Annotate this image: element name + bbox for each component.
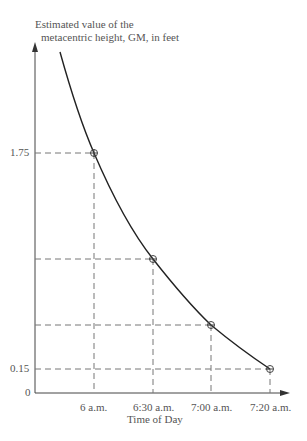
x-tick-700am: 7:00 a.m.	[191, 401, 232, 413]
x-axis-arrow-icon	[280, 390, 290, 396]
x-tick-6am: 6 a.m.	[80, 401, 107, 413]
chart-plot	[0, 0, 307, 441]
y-tick-0: 0	[25, 386, 31, 398]
x-tick-720am: 7:20 a.m.	[250, 401, 291, 413]
x-tick-630am: 6:30 a.m.	[133, 401, 174, 413]
y-axis-arrow-icon	[32, 42, 38, 52]
y-tick-1-75: 1.75	[10, 146, 29, 158]
x-axis-label: Time of Day	[127, 413, 183, 425]
y-tick-0-15: 0.15	[10, 362, 29, 374]
